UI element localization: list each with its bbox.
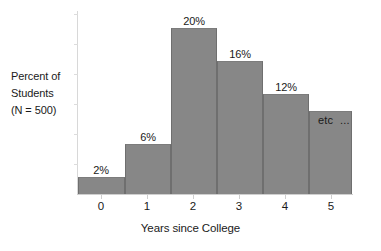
etc-annotation: etc [318,114,333,126]
y-axis-label-line1: Percent of [11,68,75,85]
x-tick-label-4: 4 [265,200,305,212]
x-tick-label-1: 1 [127,200,167,212]
bar-label-2: 20% [171,15,217,27]
ellipsis-annotation: ... [340,114,350,126]
bar-3 [217,61,263,194]
x-axis-tick [331,195,332,199]
x-axis-tick [101,195,102,199]
histogram-chart: Percent of Students (N = 500) 2% 6% 20% … [0,0,381,251]
x-axis-tick [193,195,194,199]
bar-label-4: 12% [263,81,309,93]
x-tick-label-2: 2 [173,200,213,212]
x-axis-tick [147,195,148,199]
bar-2 [171,28,217,194]
y-axis-label: Percent of Students (N = 500) [11,68,75,119]
bar-label-0: 2% [81,164,121,176]
x-axis-tick [285,195,286,199]
bar-4 [263,94,309,194]
x-tick-label-5: 5 [311,200,351,212]
x-tick-label-3: 3 [219,200,259,212]
bar-label-1: 6% [128,131,168,143]
bar-1 [125,144,171,194]
bar-0 [78,177,125,194]
y-axis-label-line3: (N = 500) [11,102,75,119]
x-axis-title: Years since College [0,222,381,234]
x-tick-label-0: 0 [81,200,121,212]
x-axis-tick [239,195,240,199]
bar-label-3: 16% [217,48,263,60]
y-axis-label-line2: Students [11,85,75,102]
x-axis-line [77,194,353,195]
